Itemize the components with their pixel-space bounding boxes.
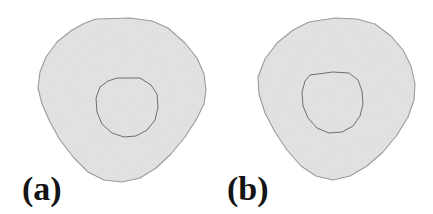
outer-blob-b-grain xyxy=(258,18,415,180)
panel-b-label: (b) xyxy=(227,172,269,206)
figure-panel-b: (b) xyxy=(217,0,433,214)
figure-container: (a) (b) xyxy=(0,0,433,214)
figure-panel-a: (a) xyxy=(0,0,216,214)
outer-blob-a-grain xyxy=(38,18,206,182)
panel-a-label: (a) xyxy=(22,172,62,206)
